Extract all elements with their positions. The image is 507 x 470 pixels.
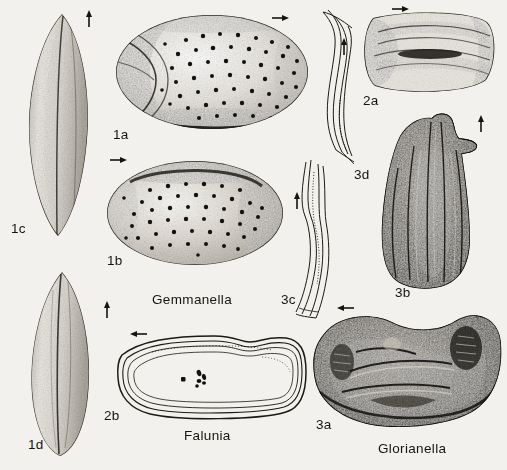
specimen-1c [26,14,92,236]
arrow-right-1a [272,15,289,21]
muscle-scars-2b [181,369,207,388]
specimen-1b [106,160,290,269]
figure-label-3c: 3c [281,293,296,307]
genus-label-glorianella: Glorianella [378,442,446,456]
specimen-2a [364,12,495,91]
arrow-right-1b [110,157,127,163]
specimen-1a [116,11,318,136]
figure-label-1d: 1d [28,438,43,452]
figure-label-3d: 3d [354,168,369,182]
specimen-3b [382,114,477,289]
arrow-up-3c [294,192,300,209]
figure-label-1c: 1c [11,222,26,236]
arrow-left-3a [337,305,354,311]
specimen-3d [323,10,354,164]
figure-label-1b: 1b [107,254,122,268]
arrow-up-1c [86,10,92,27]
arrow-right-2a [392,6,409,12]
specimen-2b [118,336,306,419]
arrow-up-1d [104,301,110,318]
plate-illustration [0,0,507,470]
genus-label-falunia: Falunia [184,429,231,443]
figure-label-2b: 2b [104,409,119,423]
figure-label-3a: 3a [316,418,331,432]
specimen-3c [296,160,329,318]
specimen-3a [313,315,501,427]
arrow-left-2b [130,331,147,337]
figure-label-1a: 1a [113,128,128,142]
specimen-1d [29,272,92,456]
fossil-plate: 1a 1b 1c 1d 2a 2b 3a 3b 3c 3d Gemmanella… [0,0,507,470]
arrow-up-3b [478,115,484,132]
figure-label-3b: 3b [395,286,410,300]
figure-label-2a: 2a [363,94,378,108]
genus-label-gemmanella: Gemmanella [152,293,232,307]
